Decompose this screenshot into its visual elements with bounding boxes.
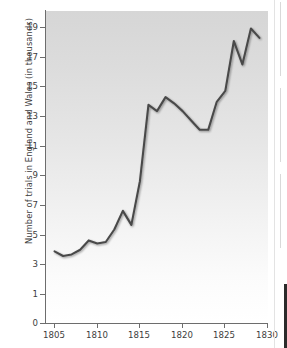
y-tick-label-9: 9 — [8, 170, 38, 180]
page-edge-segment-2 — [280, 88, 281, 162]
chart-figure: Number of trials in England and Wales (i… — [0, 0, 287, 348]
x-tick-1805 — [54, 324, 55, 328]
x-tick-1825 — [224, 324, 225, 328]
y-tick-label-13: 13 — [8, 111, 38, 121]
line-series — [46, 11, 268, 323]
x-tick-1830 — [267, 324, 268, 328]
x-tick-label-1805: 1805 — [34, 330, 74, 340]
x-tick-1820 — [182, 324, 183, 328]
y-tick-label-3: 3 — [8, 259, 38, 269]
y-tick-label-0: 0 — [8, 318, 38, 328]
y-axis-line — [45, 10, 46, 324]
y-tick-label-11: 11 — [8, 141, 38, 151]
y-tick-7 — [40, 205, 45, 206]
x-axis-line — [45, 323, 268, 324]
y-tick-19 — [40, 27, 45, 28]
y-tick-label-15: 15 — [8, 81, 38, 91]
y-tick-17 — [40, 57, 45, 58]
x-tick-label-1825: 1825 — [204, 330, 244, 340]
x-tick-label-1830: 1830 — [247, 330, 287, 340]
y-tick-label-7: 7 — [8, 200, 38, 210]
y-axis-title: Number of trials in England and Wales (i… — [24, 16, 34, 246]
plot-area — [46, 11, 268, 323]
y-tick-15 — [40, 86, 45, 87]
x-tick-label-1820: 1820 — [162, 330, 202, 340]
y-tick-13 — [40, 116, 45, 117]
y-tick-9 — [40, 175, 45, 176]
y-tick-1 — [40, 294, 45, 295]
page-edge-segment-1 — [280, 2, 281, 76]
y-tick-label-1: 1 — [8, 289, 38, 299]
y-tick-label-17: 17 — [8, 52, 38, 62]
x-tick-1810 — [97, 324, 98, 328]
y-tick-11 — [40, 146, 45, 147]
y-tick-0 — [40, 323, 45, 324]
y-tick-3 — [40, 264, 45, 265]
y-tick-label-19: 19 — [8, 22, 38, 32]
page-edge-segment-3 — [280, 174, 281, 248]
y-tick-5 — [40, 235, 45, 236]
x-tick-1815 — [139, 324, 140, 328]
page-edge-dark-bar — [284, 284, 287, 348]
page-edge-line — [274, 0, 275, 348]
x-tick-label-1815: 1815 — [119, 330, 159, 340]
x-tick-label-1810: 1810 — [77, 330, 117, 340]
y-tick-label-5: 5 — [8, 230, 38, 240]
